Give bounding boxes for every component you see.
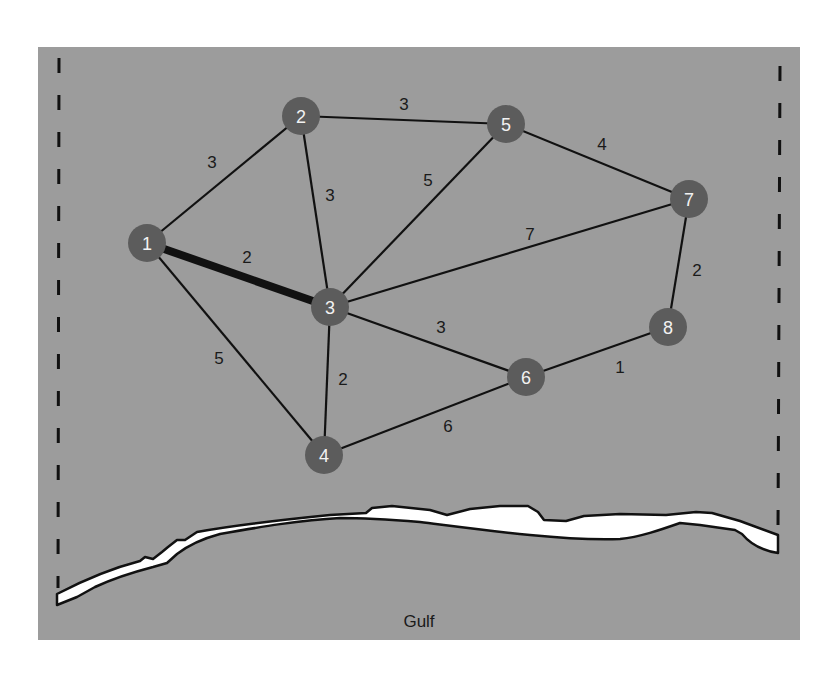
edge-weight-label: 2: [338, 370, 347, 389]
node-label: 3: [325, 298, 335, 318]
edge-weight-label: 3: [436, 318, 445, 337]
edge-weight-label: 5: [214, 349, 223, 368]
node-4: 4: [305, 436, 343, 474]
edge-weight-label: 6: [443, 417, 452, 436]
node-label: 2: [296, 107, 306, 127]
node-label: 1: [142, 234, 152, 254]
edge-weight-label: 3: [207, 153, 216, 172]
node-1: 1: [128, 224, 166, 262]
edge-weight-label: 3: [399, 95, 408, 114]
node-label: 4: [319, 446, 329, 466]
node-2: 2: [282, 97, 320, 135]
node-6: 6: [507, 358, 545, 396]
map-panel: [38, 47, 800, 640]
edge-weight-label: 7: [525, 225, 534, 244]
node-label: 5: [501, 115, 511, 135]
edge-weight-label: 1: [615, 358, 624, 377]
edge-weight-label: 2: [242, 248, 251, 267]
node-3: 3: [311, 288, 349, 326]
node-label: 8: [663, 318, 673, 338]
node-5: 5: [487, 105, 525, 143]
gulf-label: Gulf: [403, 612, 434, 631]
edge-weight-label: 5: [423, 171, 432, 190]
edge-weight-label: 4: [597, 135, 606, 154]
node-label: 6: [521, 368, 531, 388]
edge-weight-label: 2: [692, 261, 701, 280]
node-8: 8: [649, 308, 687, 346]
left-boundary-dashed-line: [58, 58, 59, 588]
edge-weight-label: 3: [325, 186, 334, 205]
node-7: 7: [670, 180, 708, 218]
node-label: 7: [684, 190, 694, 210]
network-diagram: 12345678 3253357324216 Gulf: [0, 0, 837, 677]
